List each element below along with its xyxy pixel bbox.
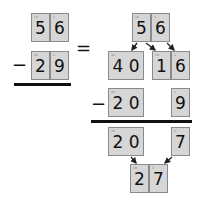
arrows <box>0 0 200 202</box>
